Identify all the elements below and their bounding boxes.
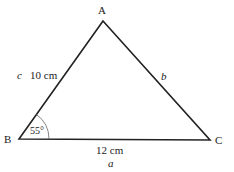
angle-b-value: 55° (30, 126, 44, 136)
side-b-name: b (161, 71, 167, 82)
side-c-name: c (17, 70, 22, 81)
side-c-length: 10 cm (30, 70, 57, 81)
vertex-b-label: B (4, 134, 11, 145)
vertex-a-label: A (98, 5, 106, 16)
vertex-c-label: C (215, 135, 222, 146)
side-a-name: a (108, 158, 114, 169)
side-a-length: 12 cm (96, 145, 123, 156)
